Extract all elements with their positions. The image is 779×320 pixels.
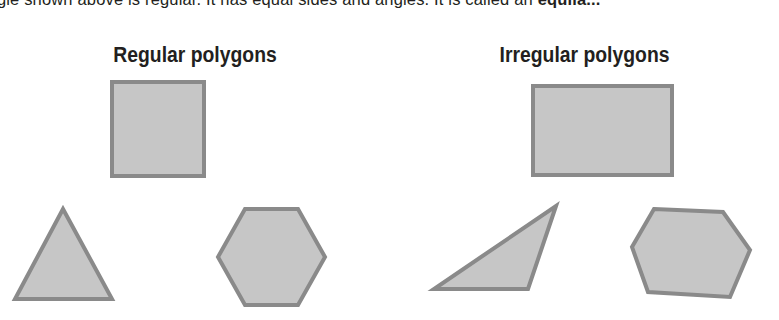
regular-polygon-group — [15, 82, 325, 305]
shape-rectangle — [533, 86, 672, 175]
shape-irregular-hexagon — [632, 209, 750, 297]
shape-square — [112, 82, 204, 176]
shape-equilateral-triangle — [15, 209, 112, 299]
shape-regular-hexagon — [218, 209, 325, 305]
shape-layer — [0, 0, 779, 320]
shape-scalene-triangle — [434, 206, 556, 289]
polygons-figure: ...angle shown above is regular. It has … — [0, 0, 779, 320]
irregular-polygon-group — [434, 86, 750, 297]
